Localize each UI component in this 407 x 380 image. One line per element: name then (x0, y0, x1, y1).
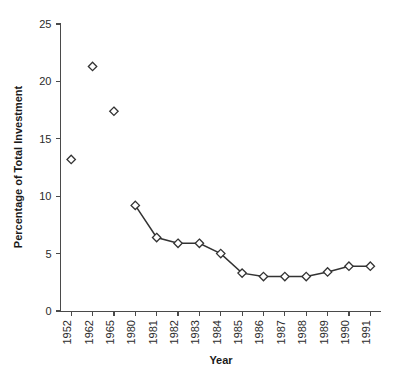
data-point-marker (67, 155, 75, 163)
y-tick-label: 0 (45, 305, 51, 317)
data-markers (67, 62, 375, 280)
x-tick-label: 1965 (104, 320, 116, 344)
data-line (135, 205, 370, 276)
data-point-marker (366, 262, 374, 270)
x-tick-label: 1952 (61, 320, 73, 344)
line-chart: 0510152025 19521962196519801981198219831… (0, 0, 407, 380)
data-point-marker (131, 201, 139, 209)
y-axis-title: Percentage of Total Investment (12, 85, 24, 248)
x-tick-label: 1985 (232, 320, 244, 344)
x-tick-label: 1980 (125, 320, 137, 344)
x-tick-label: 1987 (275, 320, 287, 344)
data-point-marker (195, 239, 203, 247)
data-point-marker (323, 268, 331, 276)
data-point-marker (259, 272, 267, 280)
y-tick-label: 5 (45, 248, 51, 260)
data-point-marker (174, 239, 182, 247)
x-tick-label: 1984 (211, 320, 223, 344)
data-point-marker (110, 107, 118, 115)
y-axis-ticks: 0510152025 (39, 18, 60, 317)
data-point-marker (345, 262, 353, 270)
x-axis-title: Year (209, 354, 233, 366)
x-tick-label: 1990 (339, 320, 351, 344)
x-tick-label: 1981 (147, 320, 159, 344)
y-tick-label: 10 (39, 190, 51, 202)
data-point-marker (281, 272, 289, 280)
data-point-marker (88, 62, 96, 70)
x-tick-label: 1989 (318, 320, 330, 344)
x-tick-label: 1983 (189, 320, 201, 344)
x-tick-label: 1982 (168, 320, 180, 344)
y-tick-label: 25 (39, 18, 51, 30)
x-axis-ticks: 1952196219651980198119821983198419851986… (61, 311, 372, 344)
chart-container: 0510152025 19521962196519801981198219831… (0, 0, 407, 380)
y-tick-label: 15 (39, 133, 51, 145)
x-tick-label: 1962 (83, 320, 95, 344)
data-point-marker (302, 272, 310, 280)
x-tick-label: 1986 (253, 320, 265, 344)
x-tick-label: 1988 (296, 320, 308, 344)
data-point-marker (152, 233, 160, 241)
x-tick-label: 1991 (360, 320, 372, 344)
y-tick-label: 20 (39, 75, 51, 87)
